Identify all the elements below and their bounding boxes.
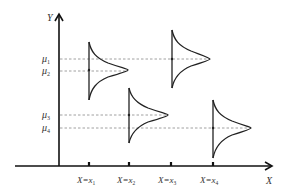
x-axis-label: X bbox=[265, 175, 273, 186]
normal-curve-x4 bbox=[212, 100, 251, 158]
x4-label: X=x4 bbox=[199, 175, 219, 186]
mu3-label: μ3 bbox=[41, 109, 50, 121]
x1-label: X=x1 bbox=[76, 175, 96, 186]
mean-labels: μ1 μ2 μ3 μ4 bbox=[41, 53, 50, 134]
mu4-label: μ4 bbox=[41, 122, 50, 134]
x-tick-labels: X=x1 X=x2 X=x3 X=x4 bbox=[76, 175, 219, 186]
y-axis-label: Y bbox=[47, 12, 54, 23]
mu2-label: μ2 bbox=[41, 65, 50, 77]
normal-curve-x2 bbox=[128, 88, 168, 143]
mu1-label: μ1 bbox=[41, 53, 50, 65]
diagram-canvas: Y X μ1 μ2 μ3 μ4 X=x1 X=x2 X=x3 X=x4 bbox=[0, 0, 287, 196]
x2-label: X=x2 bbox=[116, 175, 136, 186]
x3-label: X=x3 bbox=[157, 175, 177, 186]
